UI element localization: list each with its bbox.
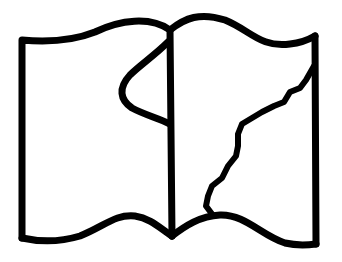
book-spine: [170, 30, 172, 236]
open-book-icon: [0, 0, 342, 262]
book-illustration: [0, 0, 342, 262]
